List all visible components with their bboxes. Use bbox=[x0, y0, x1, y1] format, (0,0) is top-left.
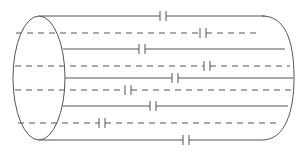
diagram-canvas bbox=[0, 0, 306, 157]
cylinder-capacitor-diagram bbox=[0, 0, 306, 157]
cylinder-left-end bbox=[13, 16, 65, 140]
